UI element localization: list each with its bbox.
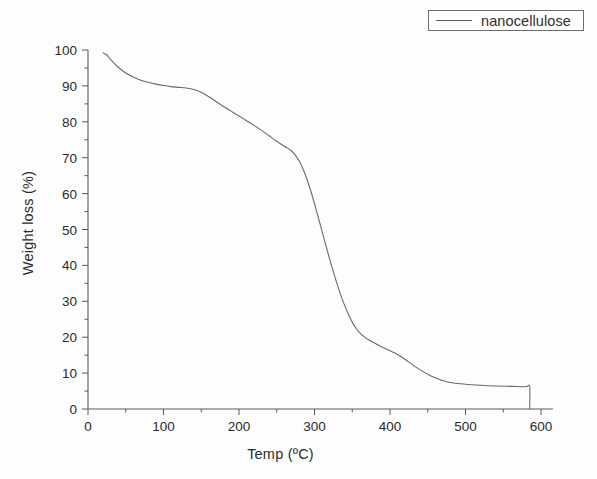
x-axis-ticks [88,409,541,415]
y-tick-label: 20 [62,330,77,345]
y-tick-label: 30 [62,294,77,309]
legend-line-swatch-icon [436,20,472,21]
legend: nanocellulose [428,10,584,31]
y-tick-label: 90 [62,78,77,93]
y-axis-title: Weight loss (%) [20,133,36,313]
y-axis-ticks [82,50,88,409]
x-tick-label: 400 [379,419,402,434]
x-tick-label: 0 [84,419,92,434]
y-tick-label: 70 [62,150,77,165]
x-axis-title: Temp (ºC) [0,446,597,462]
tga-chart-figure: 0102030405060708090100 01002003004005006… [0,0,597,479]
y-tick-label: 10 [62,366,77,381]
y-tick-label: 100 [54,43,77,58]
x-tick-label: 500 [454,419,477,434]
axis-lines [88,50,553,409]
y-tick-label: 60 [62,186,77,201]
x-tick-label: 600 [530,419,553,434]
x-tick-label: 300 [303,419,326,434]
y-tick-label: 0 [69,402,77,417]
x-tick-label: 200 [228,419,251,434]
plot-canvas [0,0,597,479]
y-tick-label: 80 [62,114,77,129]
x-axis-title-text: Temp (ºC) [247,446,314,462]
y-tick-label: 40 [62,258,77,273]
legend-label-nanocellulose: nanocellulose [481,13,571,29]
x-tick-label: 100 [152,419,175,434]
y-tick-label: 50 [62,222,77,237]
data-series-nanocellulose [103,53,530,409]
